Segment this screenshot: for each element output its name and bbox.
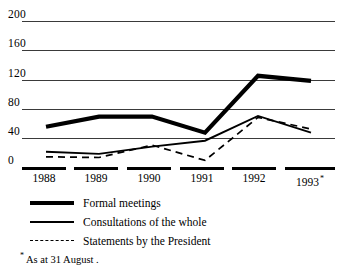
x-tick-label-1992: 1992 xyxy=(232,172,276,185)
x-tick-label-1989: 1989 xyxy=(74,172,118,185)
legend-item-formal-meetings: Formal meetings xyxy=(30,194,161,212)
legend-label-consultations-of-the-whole: Consultations of the whole xyxy=(83,216,207,229)
series-formal-meetings xyxy=(46,76,311,133)
footnote-marker: * xyxy=(20,251,24,260)
series-consultations-of-the-whole xyxy=(46,116,311,154)
x-tick-text-1989: 1989 xyxy=(85,172,108,184)
plot-area: 200 160 120 80 40 0 1988 1989 1990 xyxy=(0,0,347,186)
line-chart: 200 160 120 80 40 0 1988 1989 1990 xyxy=(0,0,347,275)
thin-solid-line-swatch-icon xyxy=(30,216,74,228)
legend-item-statements-by-the-president: Statements by the President xyxy=(30,232,210,250)
footnote-text: As at 31 August . xyxy=(26,254,99,265)
chart-footnote: *As at 31 August . xyxy=(20,250,99,266)
x-tick-label-1993: 1993* xyxy=(285,172,335,189)
legend-label-statements-by-the-president: Statements by the President xyxy=(83,235,210,248)
legend-label-formal-meetings: Formal meetings xyxy=(83,197,161,210)
dashed-line-swatch-icon xyxy=(30,235,74,247)
legend-item-consultations-of-the-whole: Consultations of the whole xyxy=(30,213,207,231)
x-tick-label-1990: 1990 xyxy=(127,172,171,185)
series-layer xyxy=(0,0,347,186)
x-tick-text-1990: 1990 xyxy=(138,172,161,184)
thick-solid-line-swatch-icon xyxy=(30,197,74,209)
x-tick-footnote-marker: * xyxy=(320,174,324,183)
x-tick-text-1988: 1988 xyxy=(33,172,56,184)
x-tick-label-1991: 1991 xyxy=(180,172,224,185)
x-tick-text-1991: 1991 xyxy=(191,172,214,184)
x-tick-label-1988: 1988 xyxy=(22,172,66,185)
x-tick-text-1993: 1993 xyxy=(296,176,319,188)
x-tick-text-1992: 1992 xyxy=(243,172,266,184)
